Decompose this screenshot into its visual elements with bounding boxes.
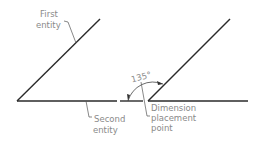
diagram-canvas: First entity Second entity 135° Dimensio… [0,0,261,146]
first-entity-line [17,19,100,101]
left-figure: First entity Second entity [17,9,125,135]
first-entity-leader [64,21,76,43]
placement-label-1: Dimension [151,103,196,113]
angled-line [148,19,230,101]
second-entity-label-2: entity [93,125,118,135]
second-entity-label-1: Second [94,114,125,124]
placement-label-3: point [151,123,173,133]
placement-label-2: placement [151,113,197,123]
right-figure: 135° Dimension placement point [120,19,248,133]
first-entity-label-2: entity [36,20,61,30]
second-entity-leader [86,101,92,117]
arc-arrow-right-icon [157,81,163,85]
first-entity-label-1: First [40,9,59,19]
placement-point-leader [141,82,150,116]
